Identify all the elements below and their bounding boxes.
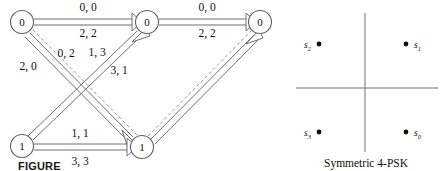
edge-label-diag-1-3: 1, 3 xyxy=(88,46,106,59)
edge-labels: 0, 0 2, 2 0, 0 2, 2 2, 0 0, 2 1, 3 3, 1 … xyxy=(19,1,216,168)
psk-point-s2[interactable] xyxy=(317,42,322,47)
dashed-edge-botright-to-topright xyxy=(148,31,251,136)
edge-label-diag-3-1: 3, 1 xyxy=(110,64,128,77)
edge-label-top-left-lower: 2, 2 xyxy=(79,27,97,40)
psk-constellation: s0 s1 s2 s3 Symmetric 4-PSK xyxy=(288,0,444,171)
psk-point-labels: s0 s1 s2 s3 xyxy=(304,40,422,140)
figure-root: 0 0 0 1 1 xyxy=(0,0,444,171)
psk-label-s2: s2 xyxy=(304,40,312,52)
edge-botleft-topmid-a xyxy=(28,31,137,136)
node-label: 1 xyxy=(139,141,145,153)
node-top-mid[interactable]: 0 xyxy=(136,11,159,34)
edge-label-diag-0-2: 0, 2 xyxy=(57,47,75,60)
node-label: 0 xyxy=(144,16,150,28)
edge-botright-topright-a xyxy=(150,35,254,140)
node-label: 0 xyxy=(257,16,263,28)
edge-label-top-right-upper: 0, 0 xyxy=(198,1,216,14)
node-top-right[interactable]: 0 xyxy=(249,11,272,34)
edge-label-diag-2-0: 2, 0 xyxy=(19,60,37,73)
psk-point-s0[interactable] xyxy=(404,130,409,135)
psk-label-s0: s0 xyxy=(414,128,422,140)
node-label: 1 xyxy=(19,140,25,152)
node-label: 0 xyxy=(19,16,25,28)
node-bottom-right[interactable]: 1 xyxy=(131,136,154,159)
edge-label-top-right-lower: 2, 2 xyxy=(198,27,216,40)
arrowheads xyxy=(122,13,263,156)
psk-svg: s0 s1 s2 s3 Symmetric 4-PSK xyxy=(288,0,444,171)
psk-label-s3: s3 xyxy=(304,128,312,140)
edge-label-bottom-lower: 3, 3 xyxy=(71,155,89,168)
node-top-left[interactable]: 0 xyxy=(11,11,34,34)
trellis-diagram: 0 0 0 1 1 xyxy=(0,0,290,171)
figure-caption: FIGURE xyxy=(18,160,61,171)
psk-caption: Symmetric 4-PSK xyxy=(324,157,409,170)
edge-label-top-left-upper: 0, 0 xyxy=(79,1,97,14)
trellis-svg: 0 0 0 1 1 xyxy=(0,0,290,171)
edge-label-bottom-upper: 1, 1 xyxy=(71,127,89,140)
psk-label-s1: s1 xyxy=(414,40,421,52)
psk-point-s1[interactable] xyxy=(404,42,409,47)
psk-point-s3[interactable] xyxy=(317,130,322,135)
dashed-edges xyxy=(33,30,251,136)
node-bottom-left[interactable]: 1 xyxy=(11,135,34,158)
edge-botright-topright-b xyxy=(155,39,259,144)
